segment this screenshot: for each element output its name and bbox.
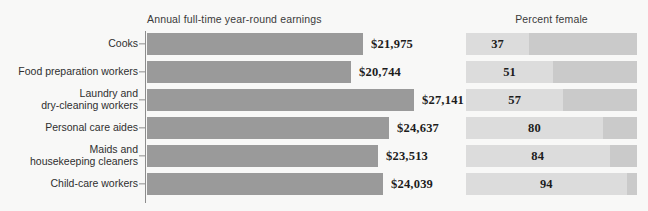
earnings-bar	[147, 89, 414, 111]
earnings-bar	[147, 117, 389, 139]
chart-row: Laundry and dry-cleaning workers$27,1415…	[0, 89, 648, 111]
category-label: Maids and housekeeping cleaners	[0, 144, 138, 167]
chart-row: Personal care aides$24,63780	[0, 117, 648, 139]
percent-female-track	[466, 61, 637, 83]
percent-female-panel-title: Percent female	[466, 13, 637, 25]
category-label: Child-care workers	[0, 178, 138, 190]
category-tick	[139, 71, 145, 72]
category-label: Laundry and dry-cleaning workers	[0, 88, 138, 111]
earnings-panel-title: Annual full-time year-round earnings	[147, 13, 322, 25]
percent-female-track	[466, 145, 637, 167]
earnings-value-label: $20,744	[359, 65, 401, 80]
category-tick	[139, 155, 145, 156]
chart-row: Food preparation workers$20,74451	[0, 61, 648, 83]
category-label: Cooks	[0, 38, 138, 50]
earnings-bar	[147, 61, 351, 83]
category-label: Food preparation workers	[0, 66, 138, 78]
chart-row: Cooks$21,97537	[0, 33, 648, 55]
percent-female-value-label: 80	[528, 121, 541, 136]
earnings-value-label: $21,975	[371, 37, 413, 52]
chart-figure: Annual full-time year-round earnings Per…	[0, 0, 648, 211]
percent-female-value-label: 94	[540, 177, 553, 192]
category-tick	[139, 127, 145, 128]
percent-female-value-label: 37	[491, 37, 504, 52]
category-tick	[139, 43, 145, 44]
earnings-value-label: $23,513	[386, 149, 428, 164]
category-tick	[139, 183, 145, 184]
earnings-value-label: $24,039	[391, 177, 433, 192]
percent-female-value-label: 51	[503, 65, 516, 80]
earnings-bar	[147, 33, 363, 55]
percent-female-value-label: 57	[508, 93, 521, 108]
earnings-bar	[147, 145, 378, 167]
earnings-value-label: $27,141	[422, 93, 464, 108]
chart-row: Child-care workers$24,03994	[0, 173, 648, 195]
percent-female-track	[466, 117, 637, 139]
percent-female-value-label: 84	[531, 149, 544, 164]
percent-female-track	[466, 89, 637, 111]
chart-row: Maids and housekeeping cleaners$23,51384	[0, 145, 648, 167]
category-label: Personal care aides	[0, 122, 138, 134]
category-tick	[139, 99, 145, 100]
earnings-bar	[147, 173, 383, 195]
earnings-value-label: $24,637	[397, 121, 439, 136]
